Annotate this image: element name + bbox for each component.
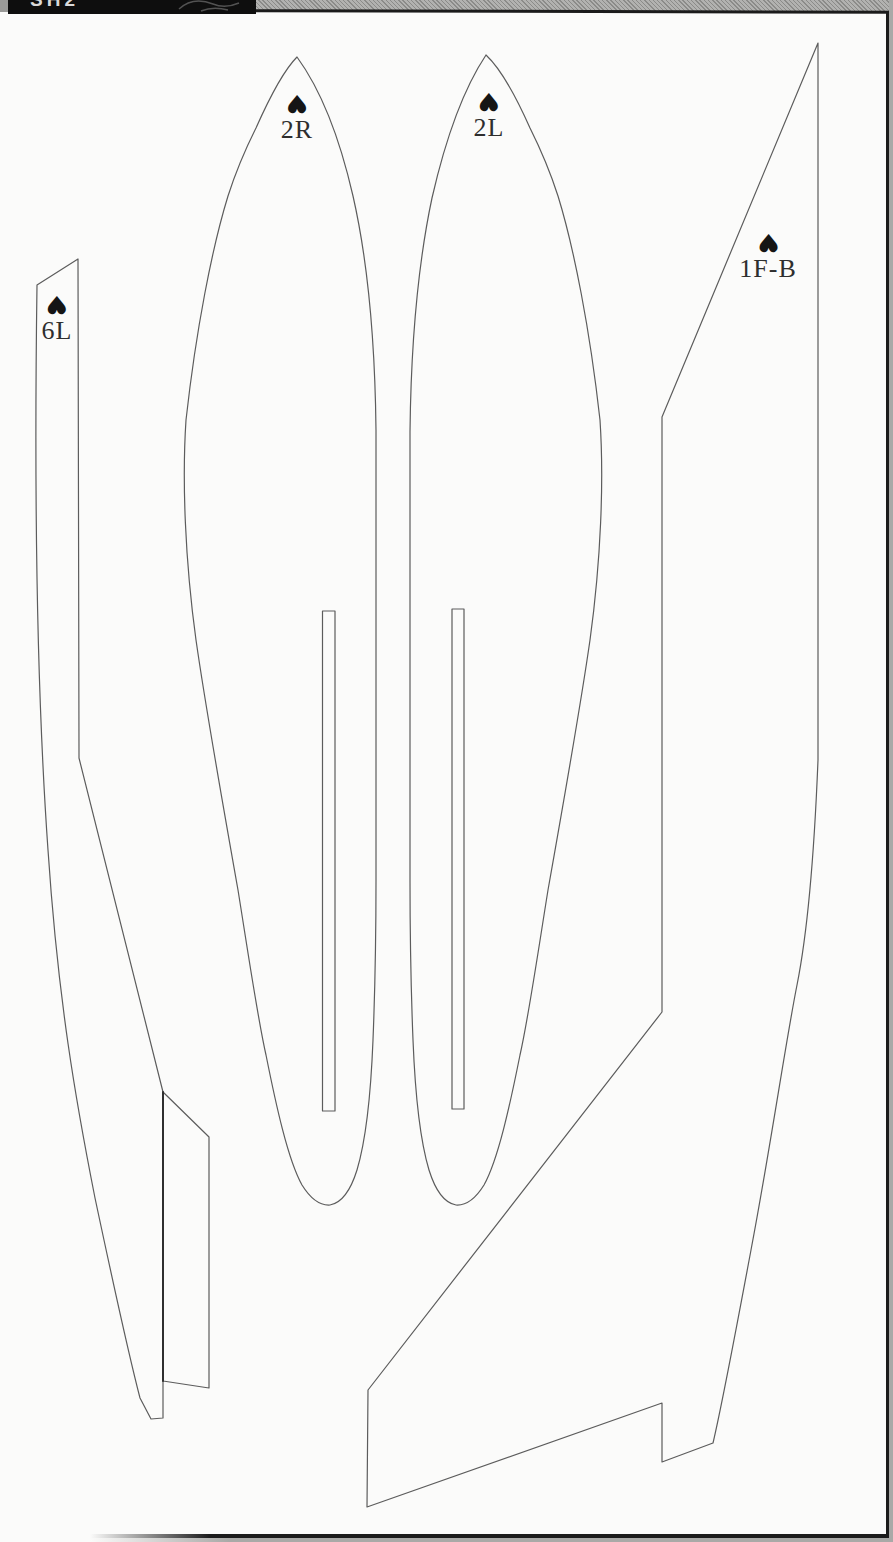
part-6L-outline: [36, 259, 163, 1419]
part-2L-slot: [452, 609, 464, 1109]
part-2R-slot: [323, 611, 336, 1111]
scanned-pattern-sheet: SH2 ♥ 2R ♥ 2L: [0, 0, 893, 1542]
part-2L-outline: [410, 55, 602, 1205]
part-1FB-outline: [367, 43, 818, 1507]
part-2R-outline: [184, 57, 376, 1205]
pattern-outlines: [0, 0, 893, 1542]
small-panel-outline: [163, 1092, 209, 1388]
